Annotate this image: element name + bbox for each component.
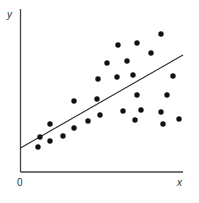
data-point bbox=[120, 108, 125, 113]
scatter-plot bbox=[0, 0, 199, 203]
data-point bbox=[37, 134, 42, 139]
data-point bbox=[130, 72, 135, 77]
data-point bbox=[132, 117, 137, 122]
data-point bbox=[164, 92, 169, 97]
data-point bbox=[97, 112, 102, 117]
origin-label: 0 bbox=[17, 177, 23, 188]
data-point bbox=[134, 92, 139, 97]
data-point bbox=[158, 31, 163, 36]
data-point bbox=[160, 121, 165, 126]
data-point bbox=[124, 58, 129, 63]
data-point bbox=[94, 96, 99, 101]
data-point bbox=[47, 138, 52, 143]
data-point bbox=[134, 40, 139, 45]
trend-line bbox=[21, 55, 184, 148]
x-axis-label: x bbox=[177, 177, 182, 188]
data-point bbox=[47, 121, 52, 126]
data-point bbox=[71, 125, 76, 130]
data-point bbox=[138, 107, 143, 112]
data-point bbox=[71, 98, 76, 103]
data-points bbox=[35, 31, 181, 149]
data-point bbox=[85, 118, 90, 123]
data-point bbox=[115, 42, 120, 47]
data-point bbox=[104, 60, 109, 65]
data-point bbox=[176, 116, 181, 121]
data-point bbox=[148, 50, 153, 55]
y-axis-label: y bbox=[7, 9, 12, 20]
data-point bbox=[158, 109, 163, 114]
data-point bbox=[60, 133, 65, 138]
data-point bbox=[114, 74, 119, 79]
data-point bbox=[95, 76, 100, 81]
data-point bbox=[170, 73, 175, 78]
data-point bbox=[35, 144, 40, 149]
